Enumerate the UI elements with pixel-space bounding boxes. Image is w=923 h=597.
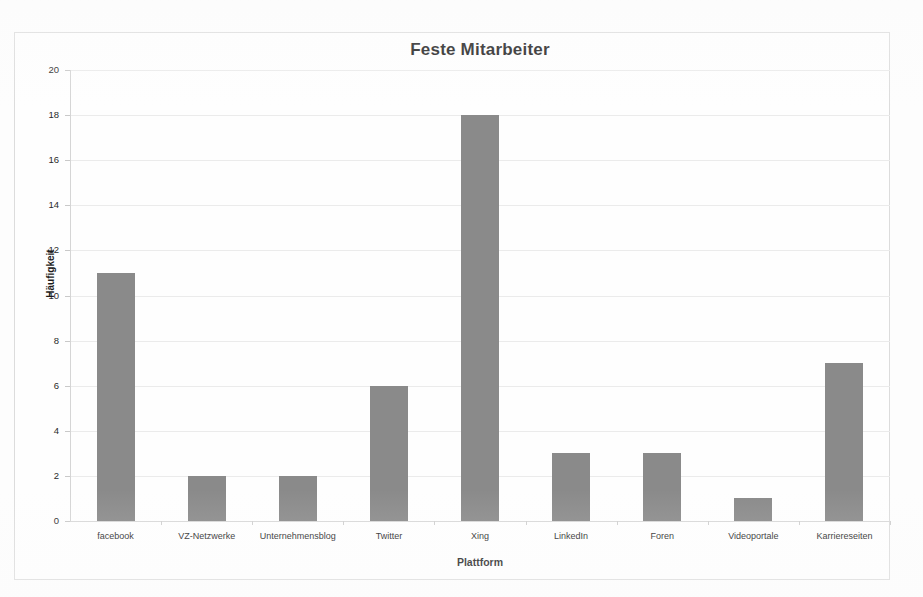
category-label: Twitter xyxy=(343,532,434,542)
y-tick-14 xyxy=(65,205,70,206)
bar xyxy=(370,386,408,521)
y-tick-8 xyxy=(65,341,70,342)
y-tick-label-0: 0 xyxy=(25,516,59,526)
category-label: LinkedIn xyxy=(526,532,617,542)
x-tick xyxy=(890,521,891,525)
plot-area xyxy=(70,70,890,521)
bar xyxy=(279,476,317,521)
y-tick-6 xyxy=(65,386,70,387)
x-tick xyxy=(708,521,709,525)
category-label: Xing xyxy=(434,532,525,542)
x-tick xyxy=(252,521,253,525)
bar xyxy=(825,363,863,521)
category-label: VZ-Netzwerke xyxy=(161,532,252,542)
x-tick xyxy=(617,521,618,525)
x-tick xyxy=(343,521,344,525)
y-tick-20 xyxy=(65,70,70,71)
y-tick-label-14: 14 xyxy=(25,200,59,210)
chart-screenshot: Feste Mitarbeiter 02468101214161820 face… xyxy=(0,0,923,597)
x-axis-title: Plattform xyxy=(70,556,890,568)
chart-title: Feste Mitarbeiter xyxy=(70,40,890,60)
y-tick-12 xyxy=(65,250,70,251)
bar xyxy=(643,453,681,521)
y-tick-label-8: 8 xyxy=(25,336,59,346)
y-tick-label-2: 2 xyxy=(25,471,59,481)
y-tick-16 xyxy=(65,160,70,161)
category-label: Videoportale xyxy=(708,532,799,542)
bar xyxy=(734,498,772,521)
y-axis-line xyxy=(70,70,71,522)
gridline-20 xyxy=(70,70,890,71)
y-tick-2 xyxy=(65,476,70,477)
y-tick-label-6: 6 xyxy=(25,381,59,391)
y-tick-18 xyxy=(65,115,70,116)
x-tick xyxy=(434,521,435,525)
y-tick-label-16: 16 xyxy=(25,155,59,165)
bar xyxy=(552,453,590,521)
y-tick-0 xyxy=(65,521,70,522)
y-tick-10 xyxy=(65,296,70,297)
y-tick-4 xyxy=(65,431,70,432)
x-tick xyxy=(526,521,527,525)
gridline-0 xyxy=(70,521,890,522)
bar xyxy=(188,476,226,521)
x-tick xyxy=(161,521,162,525)
bar xyxy=(97,273,135,521)
y-tick-label-4: 4 xyxy=(25,426,59,436)
category-label: Karriereseiten xyxy=(799,532,890,542)
category-label: Unternehmensblog xyxy=(252,532,343,542)
x-tick xyxy=(799,521,800,525)
category-label: Foren xyxy=(617,532,708,542)
category-label: facebook xyxy=(70,532,161,542)
y-tick-label-18: 18 xyxy=(25,110,59,120)
y-axis-title: Häufigkeit xyxy=(45,249,56,297)
bar xyxy=(461,115,499,521)
y-tick-label-20: 20 xyxy=(25,65,59,75)
